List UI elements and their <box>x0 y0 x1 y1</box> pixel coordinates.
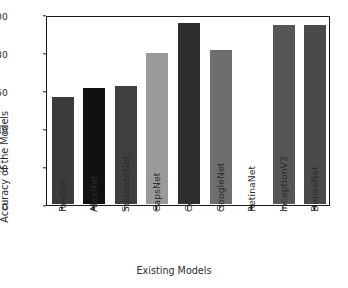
y-tick-label: 60 <box>0 87 8 98</box>
bar-chart-figure: Accuracy of the Models 020406080100 ResN… <box>0 0 348 288</box>
x-tick-label-inceptionv3: InceptionV3 <box>277 156 288 212</box>
y-tick-label: 40 <box>0 125 8 136</box>
x-tick-label-squeezenet: SqueezeNet <box>119 156 130 212</box>
x-tick-label-densenet: DenseNet <box>309 166 320 212</box>
x-tick-label-googlenet: GoogleNet <box>214 163 225 212</box>
y-tick-label: 0 <box>0 201 8 212</box>
y-tick-label: 20 <box>0 163 8 174</box>
x-tick-label-resnet: ResNet <box>56 179 67 212</box>
x-tick-label-cervixnet: CervixNet <box>183 166 194 212</box>
x-tick-label-retinanet: RetinaNet <box>246 166 257 212</box>
x-tick-label-alexnet: AlexNet <box>88 175 99 212</box>
x-axis-title: Existing Models <box>0 265 348 276</box>
x-tick-label-capsnet: CapsNet <box>151 173 162 213</box>
y-tick-label: 100 <box>0 11 8 22</box>
y-tick-label: 80 <box>0 49 8 60</box>
